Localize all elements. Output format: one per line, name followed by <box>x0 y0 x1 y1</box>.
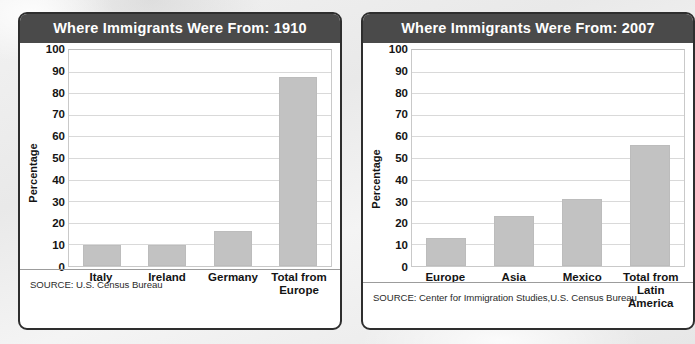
y-tick-60: 60 <box>52 131 65 143</box>
bar <box>214 231 252 266</box>
bar <box>83 245 121 266</box>
bar <box>148 245 186 266</box>
x-category-label: Europe <box>411 271 480 310</box>
bar-slot <box>135 50 201 266</box>
bar <box>279 77 317 266</box>
chart-title-1910: Where Immigrants Were From: 1910 <box>20 14 340 43</box>
y-tick-50: 50 <box>52 153 65 165</box>
x-category-label: Total from Latin America <box>617 271 686 310</box>
bar-slot <box>200 50 266 266</box>
y-tick-100: 100 <box>389 44 408 56</box>
bar <box>426 238 465 266</box>
x-category-label: Germany <box>200 271 266 297</box>
chart-title-2007: Where Immigrants Were From: 2007 <box>363 14 693 43</box>
plot-wrap-2007: EuropeAsiaMexicoTotal from Latin America <box>411 49 685 310</box>
y-tick-80: 80 <box>395 88 408 100</box>
bar-slot <box>266 50 332 266</box>
y-tick-40: 40 <box>52 175 65 187</box>
y-tick-40: 40 <box>395 175 408 187</box>
bars-1910 <box>69 50 331 266</box>
plot-area-1910 <box>68 49 332 267</box>
chart-panel-1910: Where Immigrants Were From: 1910 Percent… <box>18 12 342 330</box>
x-category-label: Mexico <box>548 271 617 310</box>
y-axis-ticks-2007: 1009080706050403020100 <box>385 49 411 267</box>
bar-chart-1910: Percentage 1009080706050403020100 ItalyI… <box>24 49 332 297</box>
x-category-label: Asia <box>480 271 549 310</box>
y-tick-10: 10 <box>52 240 65 252</box>
bar-slot <box>616 50 684 266</box>
y-tick-80: 80 <box>52 88 65 100</box>
chart-body-1910: Percentage 1009080706050403020100 ItalyI… <box>20 43 340 297</box>
y-tick-30: 30 <box>395 197 408 209</box>
charts-container: Where Immigrants Were From: 1910 Percent… <box>0 0 695 344</box>
y-tick-0: 0 <box>402 262 408 274</box>
x-axis-categories-2007: EuropeAsiaMexicoTotal from Latin America <box>411 271 685 310</box>
y-tick-70: 70 <box>52 110 65 122</box>
chart-body-2007: Percentage 1009080706050403020100 Europe… <box>363 43 693 310</box>
bar <box>630 145 669 266</box>
chart-panel-2007: Where Immigrants Were From: 2007 Percent… <box>361 12 695 330</box>
plot-area-2007 <box>411 49 685 267</box>
y-tick-20: 20 <box>52 219 65 231</box>
bar <box>562 199 601 266</box>
y-tick-30: 30 <box>52 197 65 209</box>
y-axis-ticks-1910: 1009080706050403020100 <box>42 49 68 267</box>
y-axis-label-text: Percentage <box>370 150 382 209</box>
y-tick-90: 90 <box>395 66 408 78</box>
bar-slot <box>548 50 616 266</box>
source-note-2007: SOURCE: Center for Immigration Studies,U… <box>373 292 637 303</box>
y-tick-90: 90 <box>52 66 65 78</box>
bar-slot <box>69 50 135 266</box>
y-tick-50: 50 <box>395 153 408 165</box>
y-axis-label-text: Percentage <box>27 143 39 202</box>
source-divider-2007 <box>363 282 693 283</box>
y-tick-100: 100 <box>46 44 65 56</box>
source-divider-1910 <box>20 269 340 270</box>
y-axis-label-2007: Percentage <box>367 49 385 310</box>
bar-slot <box>412 50 480 266</box>
source-note-1910: SOURCE: U.S. Census Bureau <box>30 279 163 290</box>
y-tick-10: 10 <box>395 240 408 252</box>
bar-slot <box>480 50 548 266</box>
x-category-label: Total from Europe <box>266 271 332 297</box>
y-tick-20: 20 <box>395 219 408 231</box>
y-axis-label-1910: Percentage <box>24 49 42 297</box>
bar-chart-2007: Percentage 1009080706050403020100 Europe… <box>367 49 685 310</box>
bar <box>494 216 533 266</box>
bars-2007 <box>412 50 684 266</box>
plot-wrap-1910: ItalyIrelandGermanyTotal from Europe <box>68 49 332 297</box>
y-tick-70: 70 <box>395 110 408 122</box>
y-tick-60: 60 <box>395 131 408 143</box>
